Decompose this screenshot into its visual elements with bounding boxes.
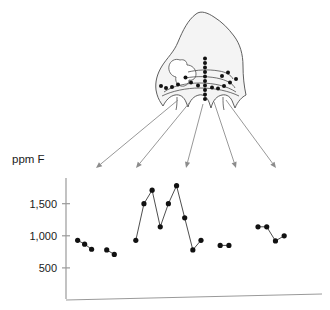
sample-point	[216, 87, 220, 91]
data-point	[182, 215, 187, 220]
sample-point	[189, 81, 193, 85]
tooth-root-split-left	[176, 97, 177, 110]
sampling-arrow	[185, 104, 203, 168]
data-point	[198, 238, 203, 243]
sample-point	[203, 93, 207, 97]
data-point	[226, 243, 231, 248]
sample-point	[203, 57, 207, 61]
sample-point	[170, 85, 174, 89]
arrow-head-icon	[185, 162, 190, 168]
series-group	[75, 183, 287, 257]
sampling-arrow	[96, 100, 178, 168]
data-point	[82, 242, 87, 247]
data-point	[174, 183, 179, 188]
sample-point	[203, 97, 207, 101]
sampling-arrow	[214, 102, 237, 168]
arrow-head-icon	[270, 162, 276, 168]
y-axis-ticks: 5001,0001,500	[29, 198, 70, 274]
sample-point	[226, 71, 230, 75]
y-axis-title: ppm F	[12, 153, 45, 165]
sample-point	[203, 79, 207, 83]
data-point	[112, 252, 117, 257]
sample-point	[203, 75, 207, 79]
x-axis-line	[66, 294, 322, 300]
tooth-root-split-right	[223, 97, 224, 110]
data-series	[218, 243, 232, 248]
arrow-group	[96, 100, 276, 168]
tooth-outline-shape	[156, 12, 246, 108]
data-point	[141, 201, 146, 206]
sample-point	[176, 83, 180, 87]
sample-point	[222, 84, 226, 88]
data-point	[150, 188, 155, 193]
sample-point	[203, 84, 207, 88]
data-point	[75, 238, 80, 243]
data-series	[133, 183, 203, 252]
y-tick-label: 1,500	[29, 198, 57, 210]
data-point	[255, 224, 260, 229]
data-point	[282, 233, 287, 238]
data-point	[264, 224, 269, 229]
sample-point	[159, 84, 163, 88]
sample-point	[220, 74, 224, 78]
sample-point	[203, 66, 207, 70]
data-point	[158, 224, 163, 229]
data-point	[218, 243, 223, 248]
arrow-head-icon	[232, 161, 237, 168]
sample-point	[184, 76, 188, 80]
sample-point	[234, 77, 238, 81]
sample-point	[196, 84, 200, 88]
data-point	[104, 247, 109, 252]
sample-point	[210, 86, 214, 90]
y-tick-label: 1,000	[29, 230, 57, 242]
y-tick-label: 500	[39, 262, 57, 274]
sample-point	[203, 61, 207, 65]
data-series	[104, 247, 117, 257]
fluoride-profile-chart: ppm F 5001,0001,500	[12, 153, 322, 300]
tooth-cross-section-diagram	[156, 12, 246, 110]
sample-point	[203, 88, 207, 92]
sampling-arrow	[226, 100, 276, 168]
data-series	[75, 238, 94, 252]
tooth-fluoride-profile-figure: ppm F 5001,0001,500	[0, 0, 330, 310]
data-point	[273, 238, 278, 243]
sample-point	[164, 86, 168, 90]
data-point	[166, 201, 171, 206]
data-point	[89, 247, 94, 252]
data-series	[255, 224, 286, 243]
data-point	[133, 238, 138, 243]
sample-point	[228, 81, 232, 85]
sample-point	[203, 70, 207, 74]
data-point	[190, 247, 195, 252]
